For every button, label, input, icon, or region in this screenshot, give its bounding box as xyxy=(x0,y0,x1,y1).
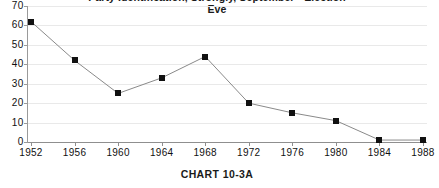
y-axis-tick-label: 50 xyxy=(2,40,24,50)
x-axis-tick xyxy=(118,143,119,146)
data-point xyxy=(333,118,339,124)
x-axis-tick xyxy=(423,143,424,146)
x-axis-tick-label: 1976 xyxy=(269,147,315,159)
x-axis-tick xyxy=(379,143,380,146)
x-axis-tick xyxy=(75,143,76,146)
x-axis-tick-label: 1952 xyxy=(8,147,54,159)
x-axis-tick xyxy=(336,143,337,146)
data-point xyxy=(289,110,295,116)
data-point xyxy=(115,90,121,96)
data-point xyxy=(28,19,34,25)
y-axis-tick-label: 0 xyxy=(2,137,24,147)
x-axis-tick-label: 1972 xyxy=(226,147,272,159)
x-axis-tick-label: 1960 xyxy=(95,147,141,159)
x-axis-tick-label: 1964 xyxy=(139,147,185,159)
y-axis-tick-label: 70 xyxy=(2,1,24,11)
x-axis-tick-label: 1988 xyxy=(400,147,439,159)
y-axis-tick-label: 20 xyxy=(2,98,24,108)
data-point xyxy=(202,54,208,60)
data-point xyxy=(376,137,382,143)
x-axis-tick xyxy=(292,143,293,146)
x-axis-tick xyxy=(31,143,32,146)
y-axis-tick-label: 40 xyxy=(2,59,24,69)
y-axis-tick-label: 30 xyxy=(2,79,24,89)
data-point xyxy=(246,100,252,106)
x-axis-tick-label: 1984 xyxy=(356,147,402,159)
chart-caption: CHART 10-3A xyxy=(0,168,434,180)
data-point xyxy=(72,57,78,63)
y-axis-labels: 010203040506070 xyxy=(0,6,24,142)
plot-area xyxy=(27,6,427,142)
x-axis-tick xyxy=(162,143,163,146)
data-point xyxy=(159,75,165,81)
y-axis-tick-label: 60 xyxy=(2,20,24,30)
x-axis-labels: 1952195619601964196819721976198019841988 xyxy=(27,147,427,161)
x-axis-tick-label: 1956 xyxy=(52,147,98,159)
x-axis-tick xyxy=(249,143,250,146)
x-axis-tick xyxy=(205,143,206,146)
y-axis-tick-label: 10 xyxy=(2,118,24,128)
x-axis-tick-label: 1980 xyxy=(313,147,359,159)
x-axis-tick-label: 1968 xyxy=(182,147,228,159)
data-point xyxy=(420,137,426,143)
series-line xyxy=(27,6,427,143)
